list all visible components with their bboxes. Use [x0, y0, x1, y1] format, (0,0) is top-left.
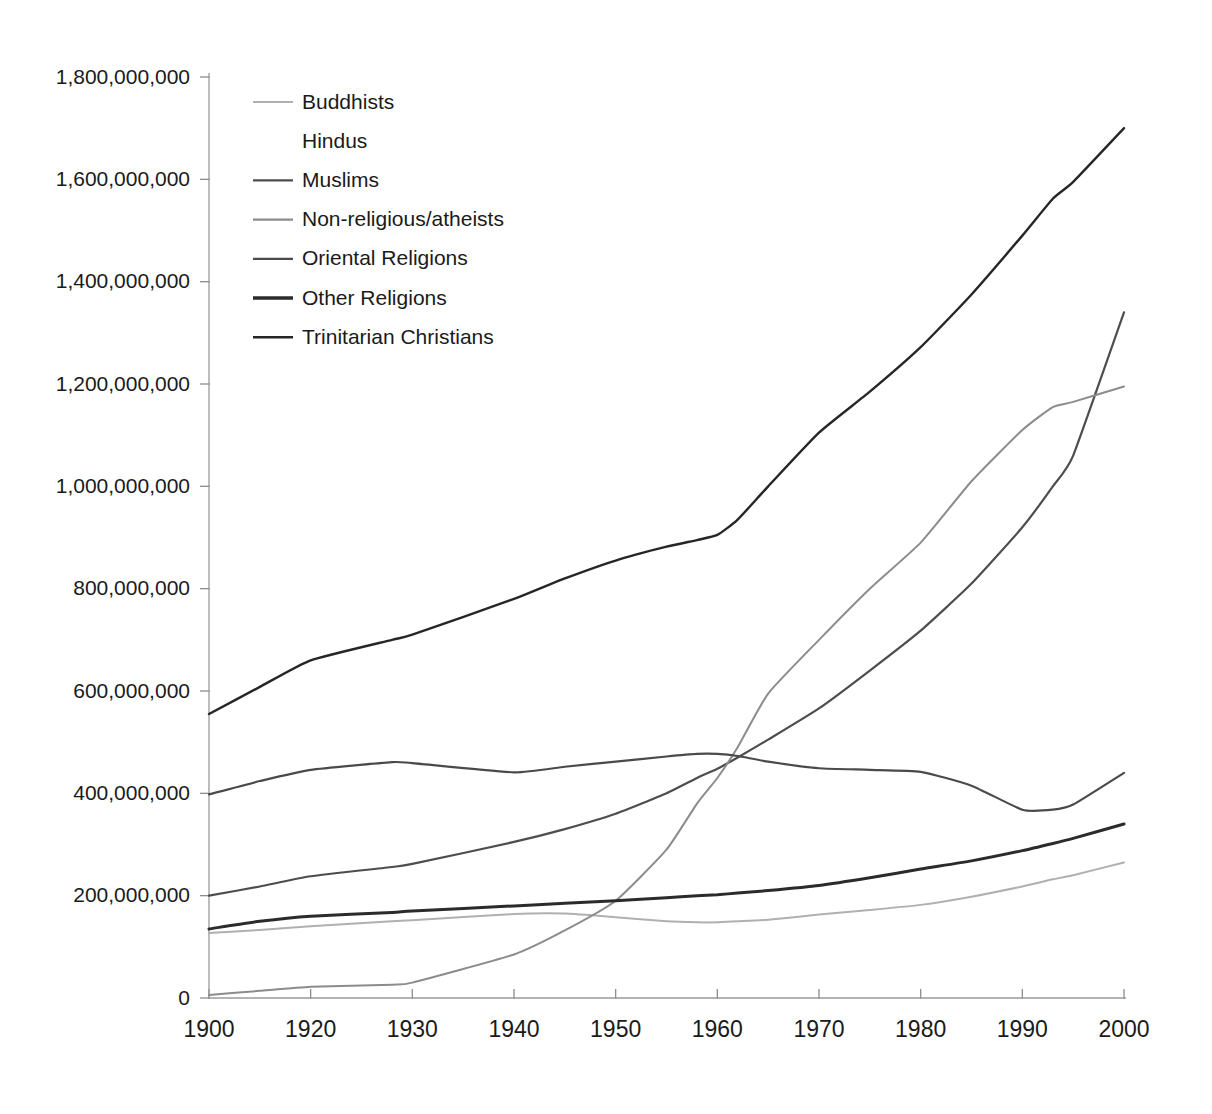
x-tick-label: 1940 [488, 1016, 539, 1042]
x-tick-label: 2000 [1098, 1016, 1149, 1042]
y-tick-label: 200,000,000 [73, 883, 190, 906]
y-tick-label: 1,400,000,000 [56, 269, 190, 292]
y-tick-label: 600,000,000 [73, 679, 190, 702]
x-tick-label: 1930 [387, 1016, 438, 1042]
legend-label-oriental-religions: Oriental Religions [302, 246, 468, 269]
x-tick-label: 1900 [183, 1016, 234, 1042]
legend-label-muslims: Muslims [302, 168, 379, 191]
y-tick-label: 1,800,000,000 [56, 65, 190, 88]
x-tick-label: 1970 [793, 1016, 844, 1042]
x-tick-label: 1920 [285, 1016, 336, 1042]
y-tick-label: 400,000,000 [73, 781, 190, 804]
y-tick-label: 0 [178, 986, 190, 1009]
x-tick-label: 1960 [692, 1016, 743, 1042]
y-tick-label: 1,000,000,000 [56, 474, 190, 497]
chart-page: 0200,000,000400,000,000600,000,000800,00… [0, 0, 1212, 1114]
x-tick-label: 1980 [895, 1016, 946, 1042]
legend-label-hindus: Hindus [302, 129, 367, 152]
y-tick-label: 800,000,000 [73, 576, 190, 599]
legend-label-trinitarian-christians: Trinitarian Christians [302, 325, 494, 348]
legend-label-other-religions: Other Religions [302, 286, 447, 309]
y-tick-label: 1,600,000,000 [56, 167, 190, 190]
line-chart: 0200,000,000400,000,000600,000,000800,00… [0, 0, 1212, 1114]
x-tick-label: 1990 [997, 1016, 1048, 1042]
y-tick-label: 1,200,000,000 [56, 372, 190, 395]
legend-label-non-religious-atheists: Non-religious/atheists [302, 207, 504, 230]
x-tick-label: 1950 [590, 1016, 641, 1042]
legend-label-buddhists: Buddhists [302, 90, 394, 113]
